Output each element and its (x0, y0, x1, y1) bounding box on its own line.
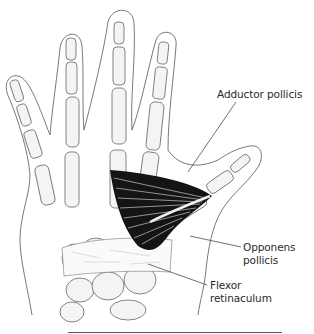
bottom-divider (68, 332, 282, 333)
leader-line-opponens (190, 236, 241, 247)
label-opponens-pollicis: Opponens pollicis (243, 241, 295, 267)
leader-line-flexor (148, 264, 207, 285)
label-flexor-line2: retinaculum (210, 292, 272, 305)
label-opponens-line1: Opponens (243, 241, 295, 254)
leader-line-adductor (188, 102, 236, 172)
label-flexor-line1: Flexor (210, 279, 272, 292)
label-opponens-line2: pollicis (243, 254, 295, 267)
label-flexor-retinaculum: Flexor retinaculum (210, 279, 272, 305)
ring-finger-bones (65, 38, 79, 207)
little-finger-bones (9, 79, 56, 206)
label-adductor-pollicis: Adductor pollicis (217, 88, 302, 101)
